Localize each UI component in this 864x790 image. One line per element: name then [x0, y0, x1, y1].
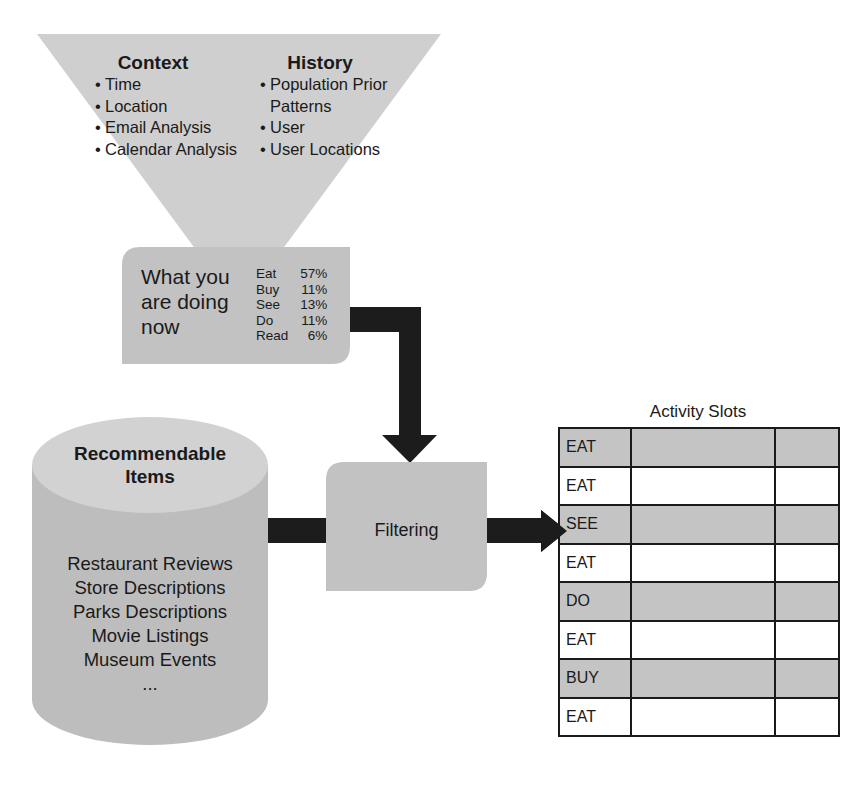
- recommendable-items-list: Restaurant Reviews Store Descriptions Pa…: [32, 552, 268, 696]
- recommendable-item: Store Descriptions: [32, 576, 268, 600]
- filter-label: Filtering: [326, 520, 487, 541]
- activity-pct: 11%: [288, 282, 327, 298]
- slot-cell: [775, 428, 839, 467]
- slot-cell: [631, 505, 775, 544]
- slot-label: SEE: [559, 505, 631, 544]
- activity-label: Read: [256, 328, 288, 344]
- recommendable-item: ...: [32, 672, 268, 696]
- context-item: Location: [95, 96, 248, 118]
- now-box-title: What you are doing now: [141, 264, 230, 339]
- slot-row: DO: [559, 582, 839, 621]
- context-item: Email Analysis: [95, 117, 248, 139]
- history-title: History: [260, 52, 380, 74]
- recommendable-item: Parks Descriptions: [32, 600, 268, 624]
- slot-cell: [631, 582, 775, 621]
- slot-row: SEE: [559, 505, 839, 544]
- slot-cell: [775, 544, 839, 583]
- slot-label: EAT: [559, 544, 631, 583]
- activity-slots-table: EAT EAT SEE EAT DO EAT BUY EAT: [558, 427, 840, 737]
- activity-probabilities: Eat57% Buy11% See13% Do11% Read6%: [256, 266, 327, 344]
- slots-title: Activity Slots: [558, 402, 838, 422]
- cylinder-title-line: Recommendable: [32, 442, 268, 465]
- slot-row: EAT: [559, 698, 839, 737]
- slot-label: EAT: [559, 428, 631, 467]
- activity-pct: 13%: [288, 297, 327, 313]
- history-item-continuation: Patterns: [260, 96, 420, 118]
- activity-label: Buy: [256, 282, 288, 298]
- now-title-line: now: [141, 314, 230, 339]
- activity-label: See: [256, 297, 288, 313]
- activity-row: Eat57%: [256, 266, 327, 282]
- history-item: Population Prior: [260, 74, 420, 96]
- activity-row: Buy11%: [256, 282, 327, 298]
- slot-cell: [631, 428, 775, 467]
- slot-cell: [631, 621, 775, 660]
- context-list: Time Location Email Analysis Calendar An…: [95, 74, 248, 160]
- activity-pct: 11%: [288, 313, 327, 329]
- slot-row: BUY: [559, 659, 839, 698]
- context-title: Context: [78, 52, 228, 74]
- slot-cell: [775, 582, 839, 621]
- slot-cell: [631, 659, 775, 698]
- activity-pct: 6%: [288, 328, 327, 344]
- slot-cell: [775, 505, 839, 544]
- history-section: History Population Prior Patterns User U…: [260, 52, 420, 160]
- slot-row: EAT: [559, 544, 839, 583]
- history-item: User: [260, 117, 420, 139]
- activity-label: Do: [256, 313, 288, 329]
- history-list: Population Prior Patterns User User Loca…: [260, 74, 420, 160]
- now-title-line: What you: [141, 264, 230, 289]
- slot-cell: [775, 659, 839, 698]
- slot-label: EAT: [559, 698, 631, 737]
- slot-cell: [775, 698, 839, 737]
- recommendable-item: Restaurant Reviews: [32, 552, 268, 576]
- slot-row: EAT: [559, 428, 839, 467]
- history-item: User Locations: [260, 139, 420, 161]
- activity-row: Read6%: [256, 328, 327, 344]
- slot-cell: [775, 467, 839, 506]
- slot-label: EAT: [559, 621, 631, 660]
- arrow-filter-to-slots: [487, 510, 567, 552]
- slot-cell: [631, 544, 775, 583]
- slot-cell: [631, 698, 775, 737]
- arrow-now-to-filter: [350, 307, 437, 463]
- context-item: Time: [95, 74, 248, 96]
- slot-cell: [631, 467, 775, 506]
- activity-row: See13%: [256, 297, 327, 313]
- recommendable-item: Museum Events: [32, 648, 268, 672]
- context-item: Calendar Analysis: [95, 139, 248, 161]
- activity-label: Eat: [256, 266, 288, 282]
- slot-label: EAT: [559, 467, 631, 506]
- cylinder-title: Recommendable Items: [32, 442, 268, 488]
- activity-pct: 57%: [288, 266, 327, 282]
- recommendable-item: Movie Listings: [32, 624, 268, 648]
- connector-cylinder-to-filter: [268, 518, 326, 543]
- slot-cell: [775, 621, 839, 660]
- slot-row: EAT: [559, 467, 839, 506]
- slot-row: EAT: [559, 621, 839, 660]
- now-title-line: are doing: [141, 289, 230, 314]
- cylinder-title-line: Items: [32, 465, 268, 488]
- slot-label: DO: [559, 582, 631, 621]
- activity-row: Do11%: [256, 313, 327, 329]
- slot-label: BUY: [559, 659, 631, 698]
- context-section: Context Time Location Email Analysis Cal…: [78, 52, 248, 160]
